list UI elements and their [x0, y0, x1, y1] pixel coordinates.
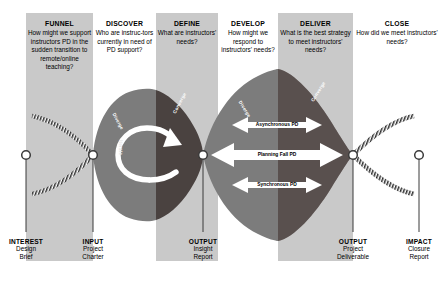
column-question: What are instructors' needs?: [157, 29, 217, 46]
milestone-line-2: Brief: [0, 253, 61, 261]
column-title: FUNNEL: [27, 19, 92, 28]
column-title: CLOSE: [355, 19, 439, 28]
column-question: Who are instruc-tors currently in need o…: [95, 29, 154, 55]
arrow-label-planning: Planning Fall PD: [247, 152, 307, 157]
milestone-interest: INTEREST Design Brief: [0, 238, 61, 262]
milestone-output-insight: OUTPUT Insight Report: [168, 238, 238, 262]
arrow-label-asynchronous: Asynchronous PD: [247, 122, 307, 127]
column-question: How did we meet instructors' needs?: [355, 29, 439, 46]
milestone-line-1: Closure: [384, 245, 445, 253]
column-header-develop: DEVELOP How might we respond to instruct…: [219, 19, 277, 55]
milestone-line-2: Charter: [58, 253, 128, 261]
milestone-line-1: Project: [318, 245, 388, 253]
diamond-one: [93, 89, 203, 222]
column-title: DEVELOP: [219, 19, 277, 28]
milestone-line-2: Report: [384, 253, 445, 261]
column-header-discover: DISCOVER Who are instruc-tors currently …: [95, 19, 154, 55]
milestone-label: OUTPUT: [318, 238, 388, 245]
milestone-label: IMPACT: [384, 238, 445, 245]
column-header-define: DEFINE What are instructors' needs?: [157, 19, 217, 46]
edge-label-iterate: Iterate: [118, 140, 123, 155]
column-header-funnel: FUNNEL How might we support instructors …: [27, 19, 92, 72]
column-title: DEFINE: [157, 19, 217, 28]
column-title: DISCOVER: [95, 19, 154, 28]
double-diamond-diagram: FUNNEL How might we support instructors …: [0, 0, 445, 281]
milestone-line-1: Project: [58, 245, 128, 253]
milestone-line-1: Design: [0, 245, 61, 253]
column-header-close: CLOSE How did we meet instructors' needs…: [355, 19, 439, 46]
milestone-line-1: Insight: [168, 245, 238, 253]
arrow-label-synchronous: Synchronous PD: [247, 182, 307, 187]
milestone-impact: IMPACT Closure Report: [384, 238, 445, 262]
milestone-label: INPUT: [58, 238, 128, 245]
milestone-label: OUTPUT: [168, 238, 238, 245]
inbound-hatched-arcs: [32, 116, 93, 194]
column-question: How might we support instructors PD in t…: [27, 29, 92, 72]
milestone-input: INPUT Project Charter: [58, 238, 128, 262]
milestone-line-2: Deliverable: [318, 253, 388, 261]
milestone-label: INTEREST: [0, 238, 61, 245]
outbound-hatched-arcs: [353, 116, 414, 194]
column-title: DELIVER: [280, 19, 351, 28]
milestone-line-2: Report: [168, 253, 238, 261]
column-question: How might we respond to instructors' nee…: [219, 29, 277, 55]
milestone-output-deliverable: OUTPUT Project Deliverable: [318, 238, 388, 262]
column-question: What is the best strategy to meet instru…: [280, 29, 351, 55]
column-header-deliver: DELIVER What is the best strategy to mee…: [280, 19, 351, 55]
